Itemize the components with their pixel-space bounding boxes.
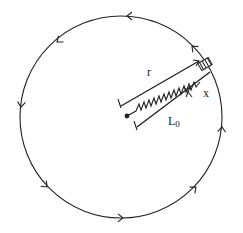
arrow-icon-right [218,127,226,133]
radius-label: r [147,65,151,79]
direction-arrows [17,12,226,222]
extension-label: x [203,86,209,100]
arrow-icon-lower-left [41,181,50,190]
natural-length-label: L0 [168,114,180,129]
radius-dimension [118,60,199,108]
spring-circular-motion-diagram: r L0 x [0,0,243,233]
arrow-icon-lower-right [190,184,199,193]
